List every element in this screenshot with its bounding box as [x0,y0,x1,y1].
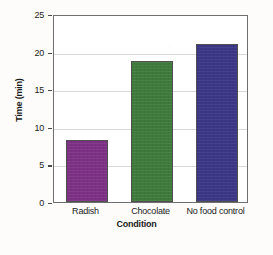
y-axis-tick-mark [48,203,52,204]
x-axis-title: Condition [0,219,273,229]
x-axis-tick-label: Chocolate [118,206,183,216]
y-axis-tick-label: 5 [22,160,44,170]
y-axis-tick-mark [48,15,52,16]
bar-chart-figure: Time (min) 0510152025 RadishChocolateNo … [0,0,273,255]
y-axis-tick-label: 10 [22,123,44,133]
y-axis-tick-mark [48,90,52,91]
bar-chocolate [131,61,173,202]
bar-no-food-control [196,44,238,202]
x-axis-tick-label: Radish [53,206,118,216]
y-axis-tick-label: 15 [22,85,44,95]
y-axis-tick-mark [48,165,52,166]
y-axis-tick-mark [48,53,52,54]
plot-area [53,15,248,203]
y-axis-tick-label: 0 [22,198,44,208]
y-axis-tick-label: 25 [22,10,44,20]
y-axis-tick-mark [48,128,52,129]
x-axis-tick-label: No food control [183,206,248,216]
y-axis-tick-label: 20 [22,48,44,58]
bar-radish [66,140,108,202]
